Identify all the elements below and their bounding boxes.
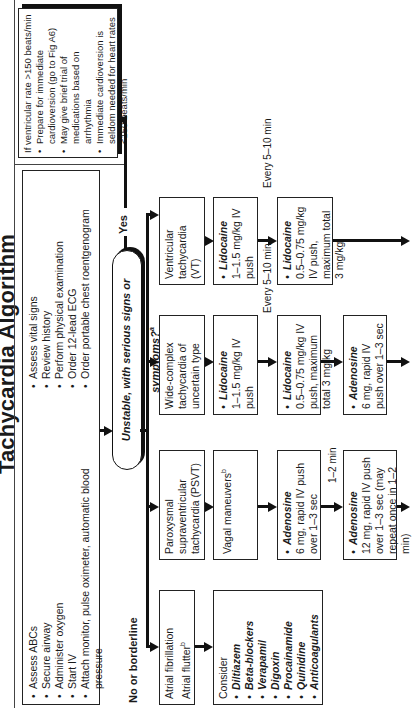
arrow-down-icon	[150, 502, 159, 512]
unstable-heading: If ventricular rate >150 beats/min	[22, 13, 34, 153]
arrow-down-icon	[334, 357, 343, 367]
list-item: May give brief trial of medications base…	[58, 13, 94, 153]
list-item: Perform physical examination	[53, 188, 66, 388]
arrow-down-icon	[268, 236, 277, 246]
af-drug-list: Diltiazem Beta-blockers Verapamil Digoxi…	[230, 596, 321, 699]
psvt-vagal-box: Vagal maneuversb	[213, 450, 258, 560]
wide-adenosine-box: Adenosine6 mg, rapid IV push over 1–3 se…	[343, 315, 387, 415]
yes-connector	[124, 118, 127, 208]
list-item: Assess ABCs	[27, 428, 40, 698]
arrow-down-icon	[150, 357, 159, 367]
list-item: Attach monitor, pulse oximeter, automati…	[79, 428, 105, 698]
wide-interval-label: Every 5–10 min	[262, 244, 273, 313]
drug-item: Beta-blockers	[243, 596, 256, 699]
arrow-down-icon	[150, 642, 159, 652]
initial-left-list: Assess ABCs Secure airway Administer oxy…	[27, 428, 105, 698]
arrow-down-icon	[268, 502, 277, 512]
section-divider	[14, 164, 124, 165]
list-item: Administer oxygen	[53, 428, 66, 698]
vt-lidocaine-2-box: Lidocaine0.5–0.75 mg/kg IV push, maximum…	[277, 197, 333, 285]
vt-interval-label: Every 5–10 min	[262, 119, 273, 188]
wide-heading-box: Wide-complex tachycardia of uncertain ty…	[159, 315, 205, 415]
arrow-up-icon	[118, 115, 127, 125]
arrow-down-icon	[150, 210, 159, 220]
arrow-down-icon	[268, 357, 277, 367]
branch-bar	[146, 213, 149, 648]
connector	[321, 505, 335, 508]
list-item: Prepare for immediate cardioversion (go …	[34, 13, 58, 153]
decision-node: Unstable, with serious signs or symptoms…	[112, 250, 142, 470]
unstable-action-box: If ventricular rate >150 beats/min Prepa…	[18, 8, 118, 158]
connector	[321, 360, 335, 363]
wide-lidocaine-1-box: Lidocaine1–1.5 mg/kg IV push	[213, 315, 258, 415]
unstable-list: Prepare for immediate cardioversion (go …	[34, 13, 130, 153]
arrow-down-icon	[401, 236, 410, 246]
psvt-adenosine-6mg-box: Adenosine6 mg, rapid IV push over 1–3 se…	[277, 450, 321, 560]
arrow-down-icon	[401, 502, 410, 512]
yes-connector	[124, 236, 127, 250]
psvt-interval-label: 1–2 min	[327, 447, 338, 483]
connector	[333, 239, 401, 242]
vt-lidocaine-1-box: Lidocaine1–1.5 mg/kg IV push	[213, 197, 258, 285]
list-item: Order portable chest roentgenogram	[79, 188, 92, 388]
psvt-heading-box: Paroxysmal supraventricular tachycardia …	[159, 450, 205, 560]
vt-heading-box: Ventricular tachycardia (VT)	[159, 197, 205, 285]
psvt-adenosine-12mg-box: Adenosine12 mg, rapid IV push over 1–3 s…	[343, 450, 397, 560]
drug-item: Anticoagulants	[308, 596, 321, 699]
diagram-title: Tachycardia Algorithm	[0, 0, 20, 708]
initial-right-list: Assess vital signs Review history Perfor…	[27, 188, 105, 388]
list-item: Order 12-lead ECG	[66, 188, 79, 388]
arrow-down-icon	[401, 357, 410, 367]
title-rule	[14, 0, 15, 708]
drug-item: Verapamil	[256, 596, 269, 699]
af-heading-box: Atrial fibrillation Atrial flutterb	[159, 590, 195, 705]
drug-item: Procainamide	[282, 596, 295, 699]
no-borderline-label: No or borderline	[127, 617, 139, 703]
drug-item: Quinidine	[295, 596, 308, 699]
af-consider-box: Consider Diltiazem Beta-blockers Verapam…	[213, 590, 323, 705]
drug-item: Diltiazem	[230, 596, 243, 699]
list-item: Secure airway	[40, 428, 53, 698]
yes-label: Yes	[117, 215, 129, 234]
arrow-down-icon	[204, 642, 213, 652]
list-item: Assess vital signs	[27, 188, 40, 388]
list-item: Start IV	[66, 428, 79, 698]
arrow-down-icon	[334, 502, 343, 512]
initial-assessment-box: Assess ABCs Secure airway Administer oxy…	[22, 170, 100, 705]
list-item: Review history	[40, 188, 53, 388]
wide-lidocaine-2-box: Lidocaine0.5–0.75 mg/kg IV push, maximum…	[277, 315, 321, 415]
drug-item: Digoxin	[269, 596, 282, 699]
connector	[387, 360, 401, 363]
